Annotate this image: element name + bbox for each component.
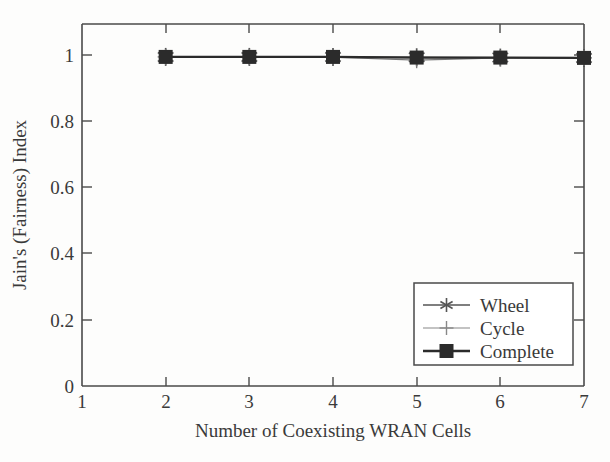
y-tick-label-08: 0.8 [50, 111, 74, 132]
chart-figure: 1 0.8 0.6 0.4 0.2 0 1 2 3 [0, 0, 610, 462]
x-tick-label-7: 7 [579, 391, 589, 412]
series-complete [159, 50, 591, 65]
y-tick-label-04: 0.4 [50, 243, 74, 264]
legend-label-complete: Complete [480, 341, 554, 362]
x-tick-label-6: 6 [495, 391, 505, 412]
y-tick-label-0: 0 [65, 376, 75, 397]
x-tick-label-1: 1 [77, 391, 87, 412]
marker-filled-square [326, 50, 340, 64]
legend-label-cycle: Cycle [480, 318, 524, 339]
marker-filled-square [493, 51, 507, 65]
y-tick-label-1: 1 [65, 45, 75, 66]
x-tick-label-2: 2 [161, 391, 171, 412]
legend-label-wheel: Wheel [480, 295, 530, 316]
marker-filled-square [410, 51, 424, 65]
x-tick-label-5: 5 [412, 391, 422, 412]
x-axis-title: Number of Coexisting WRAN Cells [195, 420, 471, 441]
series-line-complete [166, 57, 584, 58]
data-series-layer [158, 48, 592, 68]
x-tick-label-3: 3 [244, 391, 254, 412]
y-tick-label-06: 0.6 [50, 177, 74, 198]
filled-square-icon [440, 344, 454, 358]
y-axis-title: Jain's (Fairness) Index [9, 119, 31, 290]
x-tick-label-4: 4 [328, 391, 338, 412]
marker-filled-square [159, 50, 173, 64]
line-chart: 1 0.8 0.6 0.4 0.2 0 1 2 3 [0, 0, 610, 462]
chart-legend[interactable]: Wheel Cycle Complete [414, 283, 573, 365]
y-tick-label-02: 0.2 [50, 310, 74, 331]
marker-filled-square [242, 50, 256, 64]
marker-filled-square [577, 51, 591, 65]
